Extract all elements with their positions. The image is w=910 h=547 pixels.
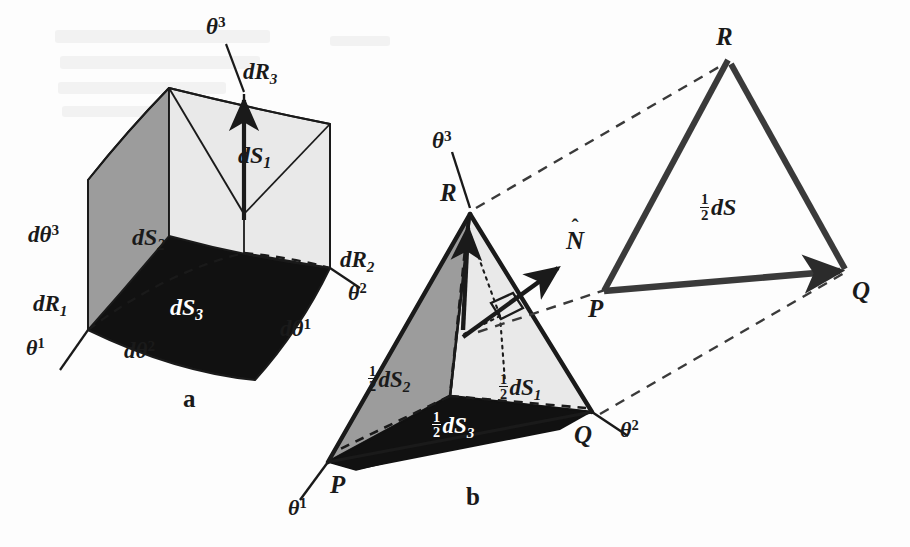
label-vertex-Q-panel-b: Q <box>574 422 592 447</box>
label-vertex-P-panel-c: P <box>588 296 603 321</box>
edge-triangle-P-to-Q <box>604 271 840 291</box>
label-dR1-panel-a: dR1 <box>33 292 67 318</box>
label-dtheta1-panel-a: dθ1 <box>280 316 311 340</box>
label-area-half-dS-panel-c: 12dS <box>700 192 736 223</box>
label-face-half-dS1-panel-b: 12dS1 <box>499 372 541 402</box>
figure-canvas <box>0 0 910 547</box>
label-face-half-dS3-panel-b: 12dS3 <box>432 410 474 440</box>
edge-triangle-R-to-P <box>604 60 728 291</box>
label-vertex-Q-panel-c: Q <box>852 278 870 303</box>
label-dtheta2-panel-a: dθ2 <box>124 338 155 362</box>
label-face-half-dS2-panel-b: 12dS2 <box>368 364 410 394</box>
label-dtheta3-panel-a: dθ3 <box>28 222 59 246</box>
axis-theta1-line <box>60 330 88 370</box>
label-theta1-panel-a: θ1 <box>26 336 45 359</box>
label-vertex-R-panel-b: R <box>440 180 457 205</box>
link-dashed-Q <box>600 272 846 414</box>
label-face-dS2-panel-a: dS2 <box>132 225 165 253</box>
label-N-hat-panel-b: ˆN <box>566 228 584 253</box>
panel-a-caption: a <box>183 386 196 411</box>
label-theta1-panel-b: θ1 <box>288 496 307 519</box>
label-vertex-R-panel-c: R <box>716 24 733 49</box>
face-dS1-light <box>169 88 330 268</box>
label-theta2-panel-a: θ2 <box>348 281 367 304</box>
label-face-dS3-panel-a: dS3 <box>170 295 203 323</box>
panel-a-volume-element <box>60 44 360 380</box>
edge-triangle-Q-to-R <box>731 64 845 269</box>
label-vertex-P-panel-b: P <box>330 472 345 497</box>
panel-b-caption: b <box>466 484 480 509</box>
label-dR2-panel-a: dR2 <box>340 248 374 274</box>
label-theta3-panel-b: θ3 <box>432 128 452 152</box>
label-dR3-panel-a: dR3 <box>243 60 277 86</box>
label-theta3-panel-a: θ3 <box>206 14 226 38</box>
label-face-dS1-panel-a: dS1 <box>238 143 271 171</box>
label-theta2-panel-b: θ2 <box>620 418 639 441</box>
